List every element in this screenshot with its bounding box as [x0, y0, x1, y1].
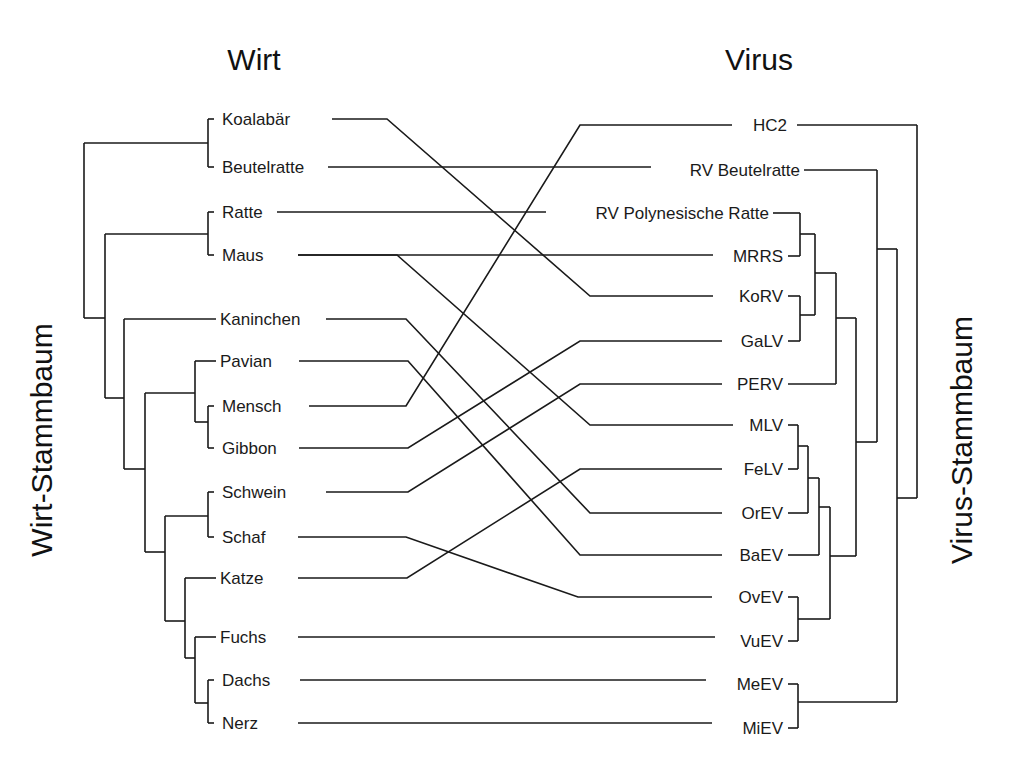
link-katze-felv [298, 469, 722, 578]
host-label-schaf: Schaf [222, 528, 266, 547]
host-title: Wirt [227, 43, 281, 76]
link-schaf-ovev [298, 537, 712, 597]
virus-label-mlv: MLV [749, 416, 783, 435]
link-gibbon-galv [299, 341, 722, 448]
link-maus-mlv [298, 255, 733, 425]
virus-label-felv: FeLV [744, 460, 784, 479]
host-label-mensch: Mensch [222, 397, 282, 416]
virus-label-ovev: OvEV [739, 588, 784, 607]
virus-title: Virus [725, 43, 793, 76]
virus-label-galv: GaLV [741, 332, 784, 351]
host-label-fuchs: Fuchs [220, 628, 266, 647]
virus-tree-label: Virus-Stammbaum [945, 316, 978, 564]
host-label-gibbon: Gibbon [222, 439, 277, 458]
virus-labels: HC2RV BeutelratteRV Polynesische RatteMR… [595, 116, 800, 738]
virus-label-miev: MiEV [742, 719, 783, 738]
host-label-koalabaer: Koalabär [222, 110, 290, 129]
host-label-kaninchen: Kaninchen [220, 310, 300, 329]
host-tree-label: Wirt-Stammbaum [25, 323, 58, 556]
virus-label-meev: MeEV [737, 675, 784, 694]
host-label-maus: Maus [222, 246, 264, 265]
host-label-nerz: Nerz [222, 714, 258, 733]
link-schwein-perv [326, 384, 722, 492]
link-kaninchen-orev [326, 319, 722, 513]
virus-label-orev: OrEV [741, 504, 783, 523]
host-label-ratte: Ratte [222, 203, 263, 222]
host-tree [84, 119, 216, 723]
link-pavian-baev [299, 361, 722, 555]
tanglegram-diagram: Wirt Virus Wirt-Stammbaum Virus-Stammbau… [0, 0, 1009, 763]
virus-label-vuev: VuEV [740, 632, 784, 651]
host-label-dachs: Dachs [222, 671, 270, 690]
virus-label-mrrs: MRRS [733, 247, 783, 266]
virus-label-hc2: HC2 [753, 116, 787, 135]
host-label-katze: Katze [220, 569, 263, 588]
virus-label-perv: PERV [737, 375, 784, 394]
host-label-pavian: Pavian [220, 352, 272, 371]
host-label-schwein: Schwein [222, 483, 286, 502]
virus-label-rvpoly: RV Polynesische Ratte [595, 204, 769, 223]
virus-label-rvbeutel: RV Beutelratte [690, 161, 800, 180]
host-labels: KoalabärBeutelratteRatteMausKaninchenPav… [220, 110, 304, 733]
virus-label-baev: BaEV [740, 546, 784, 565]
virus-tree [773, 125, 917, 728]
virus-label-korv: KoRV [739, 287, 784, 306]
host-label-beutelratte: Beutelratte [222, 158, 304, 177]
